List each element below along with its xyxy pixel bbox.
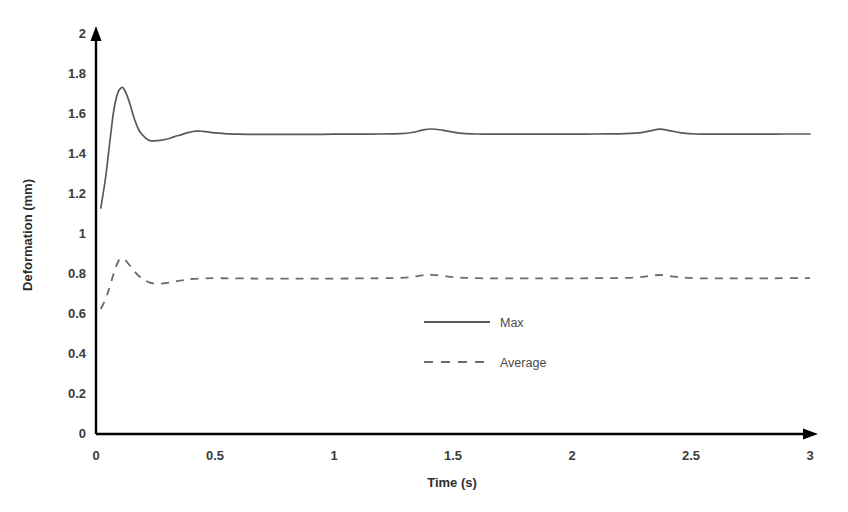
legend: Max Average (424, 316, 546, 370)
x-tick-label: 0 (92, 448, 99, 463)
legend-label-max: Max (500, 316, 524, 330)
y-tick-label: 0 (79, 426, 86, 441)
series-line-max (101, 87, 810, 208)
x-axis-arrowhead (803, 429, 818, 440)
series-line-average (101, 258, 810, 309)
x-axis-tick-labels: 0 0.5 1 1.5 2 2.5 3 (92, 448, 813, 463)
x-tick-label: 0.5 (206, 448, 224, 463)
x-tick-label: 1 (330, 448, 337, 463)
y-axis-tick-labels: 2 1.8 1.6 1.4 1.2 1 0.8 0.6 0.4 0.2 0 (68, 26, 87, 441)
x-tick-label: 1.5 (444, 448, 462, 463)
y-tick-label: 0.2 (68, 386, 86, 401)
y-axis-arrowhead (91, 26, 102, 41)
x-tick-label: 3 (806, 448, 813, 463)
y-tick-label: 0.8 (68, 266, 86, 281)
y-tick-label: 1.2 (68, 186, 86, 201)
x-tick-label: 2.5 (682, 448, 700, 463)
x-tick-label: 2 (568, 448, 575, 463)
x-axis-title: Time (s) (427, 475, 477, 490)
y-tick-label: 2 (79, 26, 86, 41)
legend-label-average: Average (500, 356, 546, 370)
chart-canvas: 2 1.8 1.6 1.4 1.2 1 0.8 0.6 0.4 0.2 0 0 … (0, 0, 848, 512)
y-tick-label: 0.4 (68, 346, 87, 361)
y-axis-title: Deformation (mm) (20, 179, 35, 291)
chart-figure: 2 1.8 1.6 1.4 1.2 1 0.8 0.6 0.4 0.2 0 0 … (0, 0, 848, 512)
y-tick-label: 0.6 (68, 306, 86, 321)
axis-lines (91, 26, 819, 440)
y-tick-label: 1.8 (68, 66, 86, 81)
y-tick-label: 1.6 (68, 106, 86, 121)
y-tick-label: 1 (79, 226, 86, 241)
y-tick-label: 1.4 (68, 146, 87, 161)
